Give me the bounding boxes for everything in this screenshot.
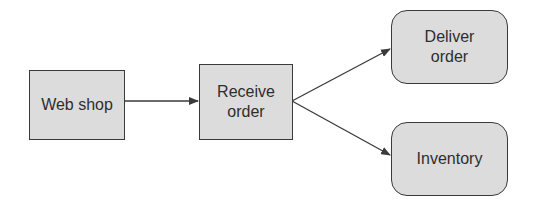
node-web-shop-label: Web shop bbox=[41, 95, 113, 115]
node-receive-order-label: Receive order bbox=[217, 82, 275, 122]
node-receive-order: Receive order bbox=[199, 64, 293, 140]
edge-receive-order-to-deliver-order bbox=[292, 49, 390, 101]
node-inventory-label: Inventory bbox=[417, 149, 483, 169]
flow-diagram: Web shop Receive order Deliver order Inv… bbox=[0, 0, 540, 204]
node-inventory: Inventory bbox=[391, 122, 508, 196]
node-web-shop: Web shop bbox=[29, 70, 125, 140]
edge-receive-order-to-inventory bbox=[292, 101, 390, 155]
node-deliver-order-label: Deliver order bbox=[425, 27, 475, 67]
node-deliver-order: Deliver order bbox=[391, 10, 508, 84]
